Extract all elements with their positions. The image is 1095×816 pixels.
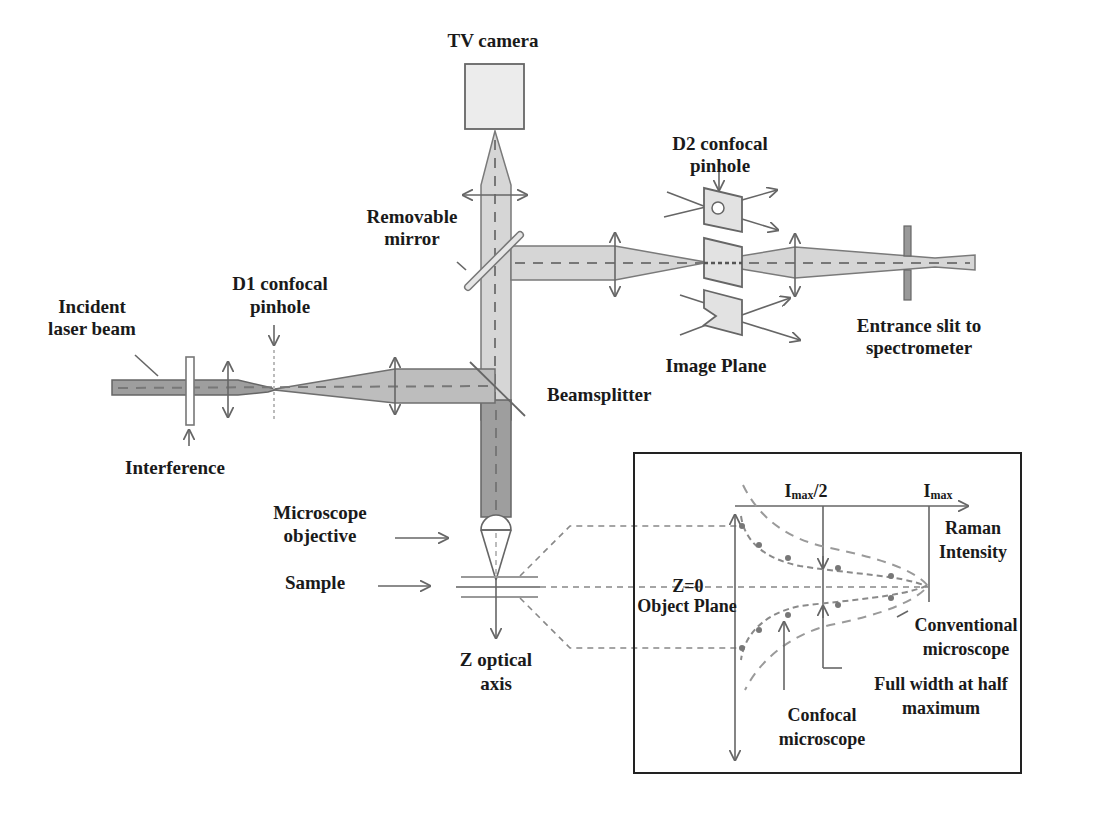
confocal-label-1: Confocal xyxy=(788,705,857,725)
incident-laser-label-2: laser beam xyxy=(48,318,136,339)
vertical-beam-lower xyxy=(481,400,511,517)
incident-laser-label-1: Incident xyxy=(58,296,126,317)
d2-pinhole-label-2: pinhole xyxy=(690,155,750,176)
image-plane-pinhole-plate xyxy=(664,188,778,232)
interference-label: Interference xyxy=(125,457,225,478)
confocal-raman-diagram: TV camera Removable mirror D2 confocal p… xyxy=(0,0,1095,816)
removable-mirror-label-1: Removable xyxy=(367,206,458,227)
image-plane-blocked-plate xyxy=(680,290,800,340)
imax-half-label: Imax/2 xyxy=(784,481,827,502)
conventional-curve xyxy=(743,485,928,690)
z-axis-label-1: Z optical xyxy=(460,649,532,670)
sample xyxy=(456,577,540,597)
removable-mirror-pointer xyxy=(457,262,466,270)
confocal-curve xyxy=(741,516,926,660)
raman-intensity-label-2: Intensity xyxy=(939,542,1007,562)
tv-camera xyxy=(465,64,524,129)
incident-pointer xyxy=(135,355,158,376)
microscope-objective-label-2: objective xyxy=(284,525,357,546)
guide-line-upper xyxy=(520,526,740,576)
microscope-objective xyxy=(481,515,511,580)
z-axis-label-2: axis xyxy=(480,673,512,694)
incident-laser-beam xyxy=(112,369,495,403)
fwhm-label-2: maximum xyxy=(902,698,980,718)
microscope-objective-label-1: Microscope xyxy=(273,502,367,523)
d1-pinhole-label-2: pinhole xyxy=(250,296,310,317)
beamsplitter-label: Beamsplitter xyxy=(547,384,652,405)
z0-label: Z=0 xyxy=(672,576,703,596)
entrance-slit-label-2: spectrometer xyxy=(866,337,973,358)
fwhm-label-1: Full width at half xyxy=(874,674,1009,694)
image-plane-focus-plate xyxy=(704,238,742,287)
tv-camera-label: TV camera xyxy=(448,30,539,51)
conventional-label-1: Conventional xyxy=(914,615,1017,635)
sample-label: Sample xyxy=(285,572,345,593)
raman-intensity-label-1: Raman xyxy=(945,518,1001,538)
conventional-pointer xyxy=(897,611,908,617)
interference-filter xyxy=(186,357,194,425)
d1-pinhole-label-1: D1 confocal xyxy=(232,273,328,294)
confocal-label-2: microscope xyxy=(779,729,866,749)
object-plane-label: Object Plane xyxy=(637,596,736,616)
d2-pinhole-label-1: D2 confocal xyxy=(672,133,768,154)
conventional-label-2: microscope xyxy=(923,639,1010,659)
entrance-slit-label-1: Entrance slit to xyxy=(857,315,982,336)
image-plane-label: Image Plane xyxy=(666,355,767,376)
imax-label: Imax xyxy=(923,481,952,502)
removable-mirror-label-2: mirror xyxy=(384,228,440,249)
